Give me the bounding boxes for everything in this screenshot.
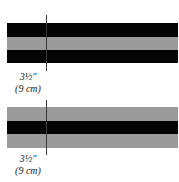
top-strip-band-3-black <box>7 50 178 63</box>
top-measurement-imperial: 3½″ <box>12 71 44 83</box>
bottom-cut-line <box>46 100 47 155</box>
bottom-strip-band-2-black <box>7 121 178 134</box>
bottom-strip-band-1-grey <box>7 107 178 121</box>
bottom-strip-set <box>7 107 178 148</box>
bottom-strip-band-3-grey <box>7 134 178 148</box>
bottom-measurement-imperial: 3½″ <box>12 153 44 165</box>
top-measurement-metric: (9 cm) <box>12 83 44 95</box>
bottom-measurement-metric: (9 cm) <box>12 165 44 177</box>
top-cut-line <box>46 15 47 71</box>
top-strip-set <box>7 23 178 63</box>
top-strip-band-2-grey <box>7 37 178 50</box>
top-strip-band-1-black <box>7 23 178 37</box>
